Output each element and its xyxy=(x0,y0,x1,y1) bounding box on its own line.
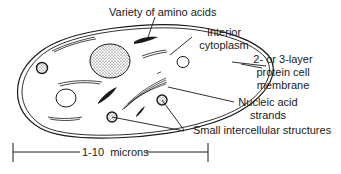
label-amino-acids: Variety of amino acids xyxy=(109,6,216,19)
cell-diagram: Variety of amino acids Interior cytoplas… xyxy=(0,0,341,174)
label-membrane-line3: membrane xyxy=(241,79,325,92)
vacuole-right xyxy=(177,57,189,68)
label-nucleic-acid: Nucleic acid strands xyxy=(232,96,304,122)
label-cytoplasm-line2: cytoplasm xyxy=(194,39,254,52)
label-scale: 1-10 microns xyxy=(82,146,149,159)
label-interior-cytoplasm: Interior cytoplasm xyxy=(194,26,254,52)
vacuole-left xyxy=(56,89,76,107)
label-nucleic-line2: strands xyxy=(232,109,304,122)
label-membrane-line2: protein cell xyxy=(241,66,325,79)
granule-left xyxy=(37,63,48,74)
label-membrane-line1: 2- or 3-layer xyxy=(241,53,325,66)
label-nucleic-line1: Nucleic acid xyxy=(232,96,304,109)
label-cytoplasm-line1: Interior xyxy=(194,26,254,39)
label-cell-membrane: 2- or 3-layer protein cell membrane xyxy=(241,53,325,92)
nucleus-blob xyxy=(90,44,130,78)
label-small-structures: Small intercellular structures xyxy=(193,124,331,137)
